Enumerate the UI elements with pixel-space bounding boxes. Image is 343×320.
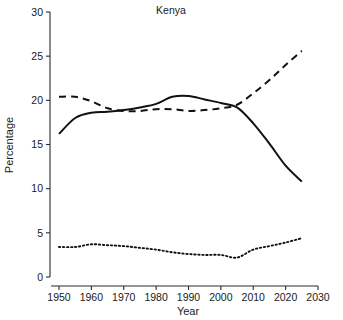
x-tick-label: 2000	[209, 291, 233, 303]
y-tick-label: 30	[31, 6, 43, 18]
series-line-dotted	[59, 238, 302, 258]
x-axis-title: Year	[177, 305, 200, 317]
series-line-dashed	[59, 51, 302, 111]
x-tick-label: 1970	[112, 291, 136, 303]
y-tick-label: 0	[37, 271, 43, 283]
x-tick-label: 1980	[144, 291, 168, 303]
y-tick-label: 15	[31, 138, 43, 150]
x-tick-marks	[59, 286, 318, 290]
x-tick-label: 1960	[80, 291, 104, 303]
chart-title: Kenya	[156, 4, 186, 16]
y-tick-label: 20	[31, 94, 43, 106]
y-axis: 051015202530	[31, 6, 50, 283]
y-axis-title: Percentage	[3, 117, 15, 173]
x-tick-label: 2030	[306, 291, 330, 303]
x-axis: 195019601970198019902000201020202030	[47, 286, 330, 303]
series-lines	[59, 51, 302, 258]
chart-container: Kenya 051015202530 195019601970198019902…	[0, 0, 343, 320]
series-line-solid	[59, 96, 302, 182]
line-chart: Kenya 051015202530 195019601970198019902…	[0, 0, 343, 320]
y-tick-label: 5	[37, 227, 43, 239]
x-tick-label: 1990	[177, 291, 201, 303]
y-tick-label: 25	[31, 50, 43, 62]
x-tick-label: 2010	[242, 291, 266, 303]
y-tick-label: 10	[31, 182, 43, 194]
x-tick-label: 1950	[47, 291, 71, 303]
x-tick-labels: 195019601970198019902000201020202030	[47, 291, 330, 303]
y-tick-marks	[46, 12, 50, 277]
y-tick-labels: 051015202530	[31, 6, 43, 283]
x-tick-label: 2020	[274, 291, 298, 303]
